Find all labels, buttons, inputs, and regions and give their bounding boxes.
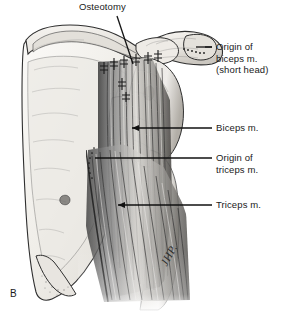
muscle-fade-bottom (78, 250, 198, 313)
label-triceps: Triceps m. (216, 199, 261, 211)
label-triceps-origin-line1: Origin of (216, 152, 253, 163)
figure-letter: B (10, 288, 17, 299)
label-triceps-origin: Origin of triceps m. (216, 152, 282, 175)
label-biceps-origin: Origin of biceps m. (short head) (216, 41, 283, 76)
scapular-notch (60, 195, 70, 205)
label-biceps-origin-line2: biceps m. (216, 53, 258, 64)
label-triceps-origin-line2: triceps m. (216, 164, 258, 175)
label-biceps: Biceps m. (216, 122, 259, 134)
label-biceps-origin-line1: Origin of (216, 41, 253, 52)
anatomical-figure: Osteotomy Origin of biceps m. (short hea… (0, 0, 283, 313)
label-osteotomy: Osteotomy (79, 1, 126, 13)
label-biceps-origin-line3: (short head) (216, 64, 268, 75)
